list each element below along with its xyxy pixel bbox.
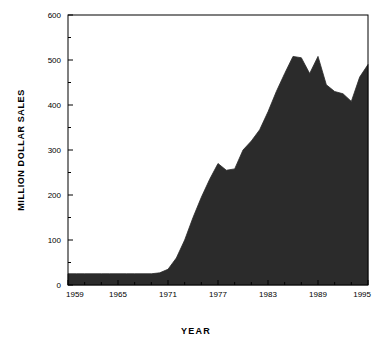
x-axis-title: YEAR xyxy=(0,326,392,336)
x-tick-label: 1995 xyxy=(353,290,371,299)
y-tick-label: 400 xyxy=(48,101,62,110)
y-tick-labels-layer: 0100200300400500600 xyxy=(48,11,62,290)
area-fill xyxy=(68,56,368,285)
x-tick-label: 1989 xyxy=(309,290,327,299)
x-tick-label: 1971 xyxy=(159,290,177,299)
x-tick-label: 1977 xyxy=(209,290,227,299)
x-tick-label: 1983 xyxy=(259,290,277,299)
y-tick-label: 500 xyxy=(48,56,62,65)
x-tick-label: 1965 xyxy=(109,290,127,299)
x-tick-label: 1959 xyxy=(66,290,84,299)
area-series-layer xyxy=(68,56,368,285)
x-tick-labels-layer: 1959196519711977198319891995 xyxy=(66,290,372,299)
y-tick-label: 300 xyxy=(48,146,62,155)
plot-canvas: 0100200300400500600 19591965197119771983… xyxy=(0,0,392,349)
y-tick-label: 0 xyxy=(57,281,62,290)
y-tick-label: 200 xyxy=(48,191,62,200)
y-tick-label: 100 xyxy=(48,236,62,245)
y-tick-label: 600 xyxy=(48,11,62,20)
sales-area-chart: MILLION DOLLAR SALES 0100200300400500600… xyxy=(0,0,392,349)
